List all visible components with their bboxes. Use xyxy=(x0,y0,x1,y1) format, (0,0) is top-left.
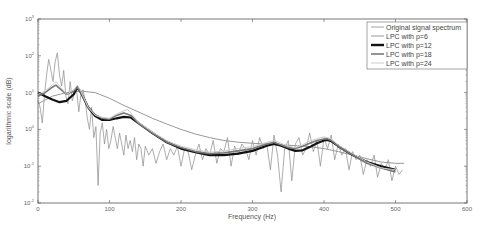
x-tick-label: 300 xyxy=(247,206,258,212)
series-line-4 xyxy=(38,82,396,170)
x-tick-label: 400 xyxy=(319,206,330,212)
y-tick-label: 10-1 xyxy=(24,161,35,169)
legend: Original signal spectrumLPC with p=6LPC … xyxy=(367,22,467,69)
y-tick-label: 10-2 xyxy=(24,198,35,206)
y-tick-label: 102 xyxy=(25,51,35,59)
y-tick-label: 100 xyxy=(25,124,35,132)
legend-label: LPC with p=6 xyxy=(386,33,428,41)
x-tick-label: 600 xyxy=(462,206,473,212)
y-tick-label: 103 xyxy=(25,14,35,22)
legend-label: LPC with p=18 xyxy=(386,51,432,59)
series-line-3 xyxy=(38,85,396,172)
y-tick-label: 101 xyxy=(25,88,35,96)
x-tick-label: 200 xyxy=(176,206,187,212)
lpc-spectrum-chart: 0100200300400500600 10-210-1100101102103… xyxy=(0,0,486,229)
x-tick-label: 0 xyxy=(36,206,40,212)
legend-label: Original signal spectrum xyxy=(386,24,461,32)
series-line-0 xyxy=(38,53,403,192)
series-line-2 xyxy=(38,87,396,170)
legend-label: LPC with p=24 xyxy=(386,60,432,68)
series-layer xyxy=(38,53,404,192)
x-tick-label: 500 xyxy=(390,206,401,212)
x-tick-label: 100 xyxy=(104,206,115,212)
y-axis-label: logarithmic scale (dB) xyxy=(5,77,13,144)
legend-label: LPC with p=12 xyxy=(386,42,432,50)
x-axis-label: Frequency (Hz) xyxy=(228,213,276,221)
